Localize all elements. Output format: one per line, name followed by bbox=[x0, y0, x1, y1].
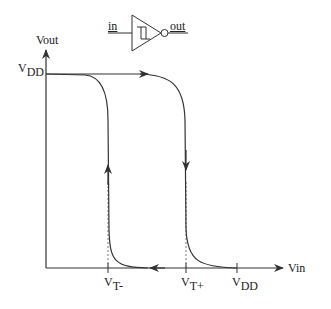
output-label: out bbox=[170, 20, 185, 32]
falling-input-curve bbox=[46, 74, 148, 268]
x-axis-label: Vin bbox=[288, 262, 305, 274]
rising-input-curve bbox=[140, 74, 237, 268]
y-axis-label: Vout bbox=[36, 34, 58, 46]
x-tick-vt-plus: VT+ bbox=[181, 276, 204, 288]
x-tick-vt-minus: VT- bbox=[104, 276, 123, 288]
inversion-bubble-icon bbox=[161, 30, 168, 37]
x-tick-vdd: VDD bbox=[232, 276, 258, 288]
y-tick-vdd: VDD bbox=[18, 62, 44, 74]
hysteresis-glyph-icon bbox=[137, 27, 150, 39]
input-label: in bbox=[108, 20, 117, 32]
